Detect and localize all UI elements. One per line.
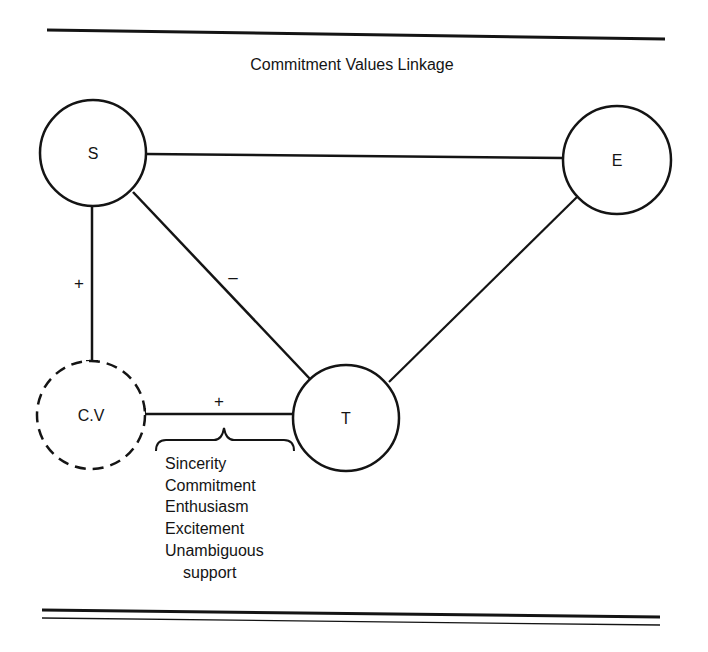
node-e-label: E	[612, 152, 623, 169]
quality-item: support	[183, 564, 237, 581]
sign-s-cv: +	[74, 274, 84, 293]
commitment-values-diagram: Commitment Values Linkage + – + S E T C.…	[0, 0, 708, 652]
qualities-list: Sincerity Commitment Enthusiasm Exciteme…	[165, 455, 264, 581]
qualities-brace	[156, 428, 294, 451]
node-t-label: T	[341, 410, 351, 427]
node-s-label: S	[88, 145, 99, 162]
quality-item: Commitment	[165, 477, 256, 494]
bottom-rule-thin	[42, 618, 660, 625]
bottom-rule-thick	[42, 610, 660, 617]
quality-item: Sincerity	[165, 455, 226, 472]
edge-e-t	[389, 197, 577, 382]
quality-item: Enthusiasm	[165, 498, 249, 515]
quality-item: Unambiguous	[165, 542, 264, 559]
node-t: T	[293, 365, 399, 471]
top-rule	[47, 30, 665, 39]
sign-s-t: –	[228, 268, 238, 287]
node-s: S	[40, 100, 146, 206]
node-cv-label: C.V	[78, 407, 105, 424]
node-e: E	[563, 106, 671, 214]
node-cv: C.V	[37, 361, 145, 469]
sign-t-cv: +	[214, 392, 224, 411]
diagram-title: Commitment Values Linkage	[250, 56, 453, 73]
edge-s-e	[146, 154, 563, 158]
quality-item: Excitement	[165, 520, 245, 537]
edge-s-t	[133, 192, 311, 380]
